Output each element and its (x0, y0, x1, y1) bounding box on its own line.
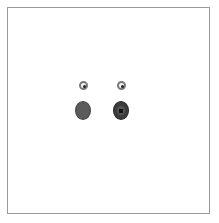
large-oval-left-shape (75, 101, 91, 120)
ring-center-dot (83, 85, 86, 88)
small-ring-right-icon (117, 81, 126, 90)
figure-frame (7, 7, 210, 214)
small-ring-left-icon (79, 81, 88, 90)
oval-center-mark (119, 109, 123, 113)
ring-center-dot (121, 85, 124, 88)
large-oval-right-shape (113, 101, 129, 120)
